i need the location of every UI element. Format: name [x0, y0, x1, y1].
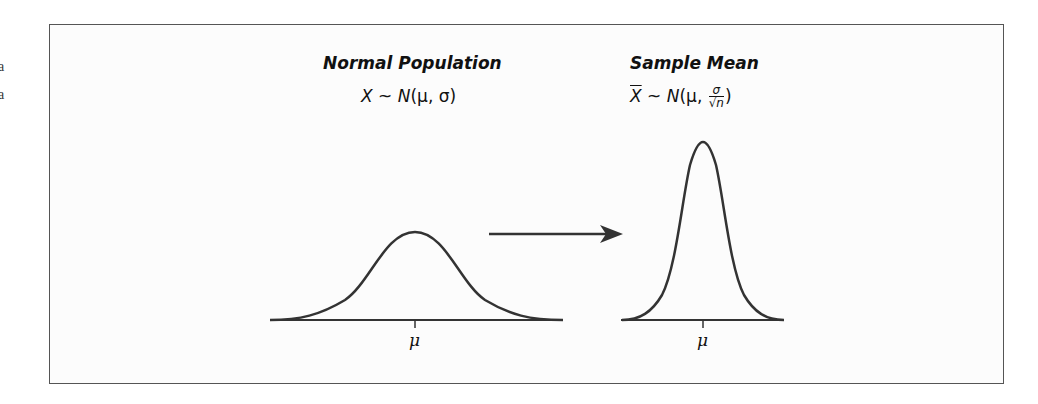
arrow-icon — [489, 225, 623, 243]
sample-mean-mu-label: μ — [697, 330, 708, 350]
population-curve — [270, 232, 563, 328]
sample-mean-curve — [621, 142, 784, 328]
distribution-plots — [0, 0, 1038, 404]
population-mu-label: μ — [409, 330, 420, 350]
